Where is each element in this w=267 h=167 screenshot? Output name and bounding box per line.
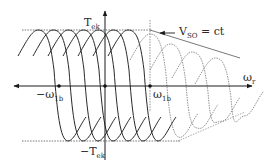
field-weakening-curve xyxy=(195,58,263,122)
torque-min-label: −Tek xyxy=(80,146,105,160)
torque-speed-diagram xyxy=(0,0,267,167)
neg-base-speed-dot xyxy=(57,84,61,88)
vso-annotation-label: VSO = ct xyxy=(179,26,224,40)
torque-max-label: Tek xyxy=(84,17,100,31)
vso-constant-line-lower xyxy=(178,112,245,141)
neg-base-speed-label: −ω1b xyxy=(36,89,63,103)
pos-base-speed-label: ω1b xyxy=(153,89,171,103)
origin-dot xyxy=(103,84,107,88)
speed-axis-label: ωr xyxy=(243,72,255,86)
pos-base-speed-dot xyxy=(148,84,152,88)
